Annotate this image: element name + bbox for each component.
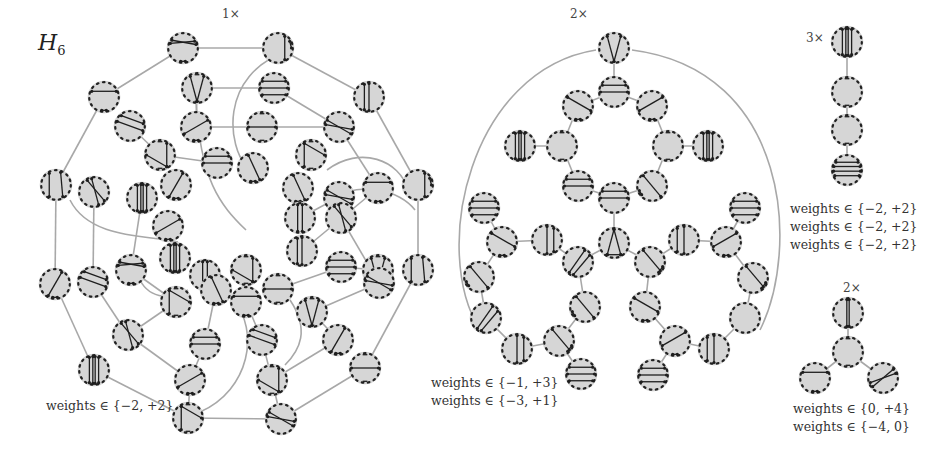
hypergraph-node	[296, 296, 328, 328]
hypergraph-node	[77, 266, 109, 298]
hypergraph-node	[598, 182, 630, 214]
weights-line: weights ∈ {−1, +3}	[431, 374, 559, 392]
hypergraph-node	[729, 192, 761, 224]
hypergraph-node	[468, 192, 500, 224]
hypergraph-node	[322, 324, 354, 356]
right-top-multiplicity-label: 3×	[806, 32, 824, 44]
hypergraph-node	[504, 130, 536, 162]
hypergraph-node	[565, 358, 597, 390]
hypergraph-node	[867, 362, 899, 394]
hypergraph-node	[569, 291, 601, 323]
hypergraph-node	[531, 224, 563, 256]
hypergraph-node	[237, 152, 269, 184]
hypergraph-node	[831, 154, 863, 186]
left-multiplicity-label: 1×	[222, 8, 240, 20]
hypergraph-node	[629, 291, 661, 323]
hypergraph-node	[636, 90, 668, 122]
hypergraph-node	[323, 111, 355, 143]
hypergraph-node	[668, 224, 700, 256]
hypergraph-node	[598, 227, 630, 259]
hypergraph-node	[284, 202, 316, 234]
hypergraph-node	[832, 336, 864, 368]
hypergraph-node	[286, 235, 318, 267]
hypergraph-node	[262, 32, 294, 64]
hypergraph-node	[598, 32, 630, 64]
hypergraph-node	[39, 268, 71, 300]
hypergraph-node	[40, 169, 72, 201]
figure-title: H6	[38, 32, 65, 57]
hypergraph-node	[160, 169, 192, 201]
hypergraph-node	[349, 352, 381, 384]
hypergraph-node	[115, 254, 147, 286]
hypergraph-node	[710, 226, 742, 258]
weights-line: weights ∈ {−2, +2}	[790, 218, 918, 236]
hypergraph-node	[362, 172, 394, 204]
hypergraph-node	[258, 72, 290, 104]
hypergraph-node	[486, 226, 518, 258]
middle-multiplicity-label: 2×	[570, 8, 588, 20]
hypergraph-node	[501, 333, 533, 365]
hypergraph-node	[402, 254, 434, 286]
hypergraph-node	[652, 130, 684, 162]
hypergraph-node	[126, 182, 158, 214]
hypergraph-node	[325, 251, 357, 283]
hypergraph-node	[78, 176, 110, 208]
hypergraph-node	[112, 319, 144, 351]
hypergraph-node	[262, 273, 294, 305]
hypergraph-node	[353, 81, 385, 113]
hypergraph-node	[201, 147, 233, 179]
hypergraph-node	[246, 111, 278, 143]
hypergraph-node	[543, 325, 575, 357]
hypergraph-node	[230, 286, 262, 318]
hypergraph-node	[562, 90, 594, 122]
hypergraph-node	[729, 302, 761, 334]
hypergraph-node	[659, 325, 691, 357]
hypergraph-node	[172, 402, 204, 434]
hypergraph-node	[88, 81, 120, 113]
hypergraph-node	[144, 139, 176, 171]
hypergraph-node	[78, 354, 110, 386]
hypergraph-node	[562, 246, 594, 278]
hypergraph-node	[200, 274, 232, 306]
middle-weights-legend: weights ∈ {−1, +3} weights ∈ {−3, +1}	[431, 374, 559, 410]
hypergraph-node	[174, 364, 206, 396]
hypergraph-node	[189, 328, 221, 360]
hypergraph-node	[634, 246, 666, 278]
hypergraph-node	[295, 139, 327, 171]
hypergraph-node	[470, 302, 502, 334]
hypergraph-node	[114, 110, 146, 142]
right-bottom-weights-legend: weights ∈ {0, +4} weights ∈ {−4, 0}	[793, 400, 910, 436]
hypergraph-node	[167, 32, 199, 64]
weights-line: weights ∈ {−2, +2}	[790, 200, 918, 218]
left-weights-legend: weights ∈ {−2, +2}	[46, 397, 174, 415]
hypergraph-node	[181, 72, 213, 104]
hypergraph-node	[692, 130, 724, 162]
weights-line: weights ∈ {0, +4}	[793, 400, 910, 418]
hypergraph-node	[159, 242, 191, 274]
hypergraph-node	[737, 262, 769, 294]
hypergraph-node	[562, 170, 594, 202]
hypergraph-node	[256, 364, 288, 396]
hypergraph-node	[180, 111, 212, 143]
hypergraph-node	[152, 210, 184, 242]
hypergraph-node	[831, 26, 863, 58]
hypergraph-node	[831, 114, 863, 146]
hypergraph-node	[230, 254, 262, 286]
hypergraph-node	[282, 172, 314, 204]
hypergraph-node	[265, 403, 297, 435]
right-bottom-multiplicity-label: 2×	[843, 282, 861, 294]
hypergraph-node	[463, 261, 495, 293]
hypergraph-node	[246, 324, 278, 356]
hypergraph-node	[402, 169, 434, 201]
weights-line: weights ∈ {−4, 0}	[793, 418, 910, 436]
hypergraph-node	[637, 359, 669, 391]
hypergraph-node	[546, 130, 578, 162]
graph-arc-edge	[233, 50, 290, 165]
hypergraph-node	[799, 362, 831, 394]
weights-line: weights ∈ {−2, +2}	[790, 236, 918, 254]
hypergraph-node	[160, 286, 192, 318]
hypergraph-node	[325, 202, 357, 234]
hypergraph-node	[598, 76, 630, 108]
hypergraph-node	[698, 333, 730, 365]
hypergraph-node	[363, 267, 395, 299]
